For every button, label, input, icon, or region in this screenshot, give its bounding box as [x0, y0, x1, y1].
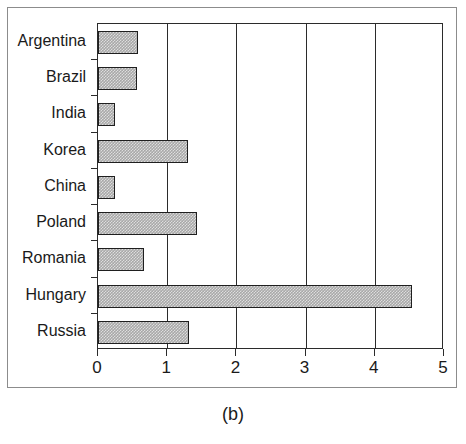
bar-row [98, 60, 444, 96]
x-axis-label-5: 5 [423, 358, 463, 378]
bar-poland[interactable] [98, 212, 197, 235]
y-axis-label-poland: Poland [36, 204, 86, 240]
bar-row [98, 96, 444, 132]
y-axis-label-hungary: Hungary [26, 277, 86, 313]
x-axis-label-0: 0 [77, 358, 117, 378]
y-axis-label-china: China [44, 168, 86, 204]
bar-india[interactable] [98, 103, 115, 126]
bar-korea[interactable] [98, 140, 188, 163]
y-axis-category-labels: ArgentinaBrazilIndiaKoreaChinaPolandRoma… [8, 23, 92, 349]
bar-row [98, 278, 444, 314]
x-axis-label-3: 3 [285, 358, 325, 378]
x-axis-tick-5 [443, 349, 444, 356]
bar-argentina[interactable] [98, 31, 138, 54]
y-axis-label-argentina: Argentina [18, 23, 87, 59]
bar-row [98, 24, 444, 60]
bar-china[interactable] [98, 176, 115, 199]
bar-chart: ArgentinaBrazilIndiaKoreaChinaPolandRoma… [8, 8, 456, 387]
x-axis-tick-3 [305, 349, 306, 356]
bar-romania[interactable] [98, 248, 144, 271]
bars-group [98, 24, 442, 348]
bar-row [98, 205, 444, 241]
x-axis-tick-2 [235, 349, 236, 356]
bar-row [98, 241, 444, 277]
x-axis-label-4: 4 [354, 358, 394, 378]
y-axis-label-india: India [51, 95, 86, 131]
bar-hungary[interactable] [98, 285, 412, 308]
bar-row [98, 314, 444, 350]
plot-area [97, 23, 443, 349]
x-axis-label-2: 2 [215, 358, 255, 378]
figure-frame: ArgentinaBrazilIndiaKoreaChinaPolandRoma… [7, 7, 457, 388]
x-axis-tick-4 [374, 349, 375, 356]
y-axis-label-korea: Korea [43, 132, 86, 168]
y-axis-label-brazil: Brazil [46, 59, 86, 95]
x-axis-tick-1 [166, 349, 167, 356]
bar-russia[interactable] [98, 321, 189, 344]
bar-row [98, 133, 444, 169]
x-axis-label-1: 1 [146, 358, 186, 378]
figure-caption: (b) [0, 404, 466, 425]
bar-brazil[interactable] [98, 67, 137, 90]
bar-row [98, 169, 444, 205]
y-axis-label-russia: Russia [37, 313, 86, 349]
y-axis-label-romania: Romania [22, 240, 86, 276]
x-axis-tick-0 [97, 349, 98, 356]
